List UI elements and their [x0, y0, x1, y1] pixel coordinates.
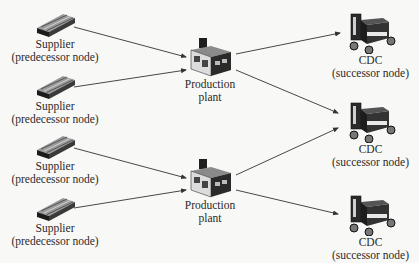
plant-title: Production: [170, 199, 250, 212]
cdc-icon: [345, 97, 397, 143]
plant-title: Production: [170, 78, 250, 91]
cdc-subtitle: (successor node): [322, 67, 419, 80]
supplier-icon: [33, 70, 77, 100]
production-plant-node-2: Production plant: [170, 157, 250, 225]
supplier-node-4: Supplier (predecessor node): [0, 192, 110, 248]
plant-subtitle: plant: [170, 91, 250, 104]
factory-icon: [187, 157, 233, 199]
cdc-subtitle: (successor node): [322, 156, 419, 169]
cdc-icon: [345, 190, 397, 236]
supplier-title: Supplier: [0, 222, 110, 235]
cdc-node-1: CDC (successor node): [322, 8, 419, 80]
supplier-subtitle: (predecessor node): [0, 173, 110, 186]
production-plant-node-1: Production plant: [170, 36, 250, 104]
plant-subtitle: plant: [170, 212, 250, 225]
supplier-title: Supplier: [0, 38, 110, 51]
supply-chain-diagram: Supplier (predecessor node) Supplier (pr…: [0, 0, 419, 263]
supplier-subtitle: (predecessor node): [0, 113, 110, 126]
cdc-icon: [345, 8, 397, 54]
supplier-icon: [33, 130, 77, 160]
supplier-subtitle: (predecessor node): [0, 235, 110, 248]
factory-icon: [187, 36, 233, 78]
cdc-node-2: CDC (successor node): [322, 97, 419, 169]
supplier-title: Supplier: [0, 100, 110, 113]
supplier-icon: [33, 8, 77, 38]
cdc-title: CDC: [322, 143, 419, 156]
supplier-icon: [33, 192, 77, 222]
cdc-subtitle: (successor node): [322, 249, 419, 262]
supplier-node-2: Supplier (predecessor node): [0, 70, 110, 126]
supplier-subtitle: (predecessor node): [0, 51, 110, 64]
supplier-title: Supplier: [0, 160, 110, 173]
cdc-node-3: CDC (successor node): [322, 190, 419, 262]
supplier-node-1: Supplier (predecessor node): [0, 8, 110, 64]
supplier-node-3: Supplier (predecessor node): [0, 130, 110, 186]
cdc-title: CDC: [322, 54, 419, 67]
cdc-title: CDC: [322, 236, 419, 249]
